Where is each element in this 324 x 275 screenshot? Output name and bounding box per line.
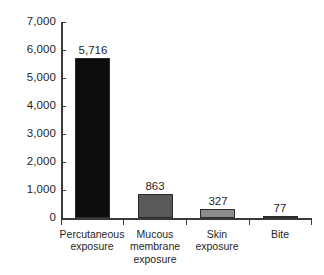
- y-axis-tick: [61, 22, 66, 23]
- category-label-line: exposure: [121, 253, 189, 265]
- x-axis-category-label: Percutaneous exposure: [58, 228, 126, 253]
- y-axis-tick: [61, 190, 66, 191]
- y-axis-tick: [61, 162, 66, 163]
- bar-mucous-membrane-exposure[interactable]: [138, 194, 173, 218]
- y-axis-tick-label: 5,000: [6, 72, 56, 84]
- x-axis-category-label: Mucous membrane exposure: [121, 228, 189, 265]
- category-label-line: Skin: [183, 228, 251, 240]
- x-axis-category-label: Bite: [246, 228, 314, 240]
- y-axis-tick: [61, 106, 66, 107]
- y-axis-tick-label: 6,000: [6, 44, 56, 56]
- y-axis-tick-label: 7,000: [6, 16, 56, 28]
- category-label-line: exposure: [183, 240, 251, 252]
- y-axis-tick-label: 4,000: [6, 100, 56, 112]
- bar-value-label: 863: [125, 180, 185, 192]
- category-label-line: Bite: [246, 228, 314, 240]
- bar-chart: 7,000 6,000 5,000 4,000 3,000 2,000 1,00…: [0, 0, 324, 275]
- y-axis-tick: [61, 134, 66, 135]
- y-axis-tick-label: 0: [6, 212, 56, 224]
- bar-bite[interactable]: [263, 216, 298, 219]
- y-axis-tick-label: 2,000: [6, 156, 56, 168]
- bar-value-label: 77: [250, 202, 310, 214]
- category-label-line: Mucous: [121, 228, 189, 240]
- x-axis-tick: [186, 219, 187, 225]
- bar-value-label: 5,716: [63, 44, 123, 56]
- y-axis-tick-label: 1,000: [6, 184, 56, 196]
- bar-skin-exposure[interactable]: [200, 209, 235, 218]
- category-label-line: exposure: [58, 240, 126, 252]
- x-axis-tick: [249, 219, 250, 225]
- bar-percutaneous-exposure[interactable]: [75, 58, 110, 218]
- category-label-line: membrane: [121, 240, 189, 252]
- x-axis-tick: [311, 219, 312, 225]
- x-axis-tick: [61, 219, 62, 225]
- category-label-line: Percutaneous: [58, 228, 126, 240]
- x-axis-category-label: Skin exposure: [183, 228, 251, 253]
- y-axis-tick-label: 3,000: [6, 128, 56, 140]
- bar-value-label: 327: [188, 195, 248, 207]
- x-axis-tick: [123, 219, 124, 225]
- y-axis-tick: [61, 78, 66, 79]
